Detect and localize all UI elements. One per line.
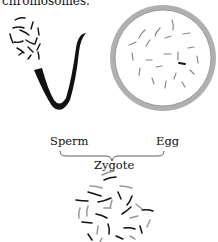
zygote-chromosomes [76, 171, 153, 242]
sperm-chromosomes [10, 18, 40, 59]
sperm-tail [34, 33, 86, 110]
sperm-label: Sperm [50, 134, 88, 148]
egg-cell [110, 5, 216, 111]
fertilization-diagram [0, 0, 218, 242]
sperm-chromosome-in-egg [179, 63, 185, 64]
egg-label: Egg [156, 134, 179, 148]
zygote-label: Zygote [94, 158, 134, 172]
